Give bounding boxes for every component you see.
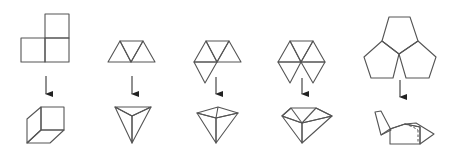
pyr4-inner-edge [216, 107, 218, 118]
net-four-triangles [194, 41, 241, 83]
diagram-canvas [0, 0, 452, 155]
net-three-squares [21, 14, 69, 62]
net-five-triangles [278, 41, 325, 83]
square-left [21, 38, 45, 62]
pyr4-face-right [216, 113, 238, 143]
pentagon-right [399, 41, 436, 78]
pyr5-face-back [282, 108, 332, 123]
square-top [45, 14, 69, 38]
hinge-edge [381, 129, 390, 135]
solid-square-pyramid-vertex [197, 107, 238, 143]
triangle-right [217, 41, 241, 62]
tri-face-right [132, 107, 151, 143]
pentagon-top [382, 17, 418, 54]
pyr5-face-left [282, 116, 302, 143]
triangle-upper-right [301, 41, 325, 62]
pyr4-face-left [197, 113, 216, 143]
triangle-lower-right [301, 62, 325, 83]
pentagon-left [364, 41, 399, 78]
solid-cube-corner [27, 107, 64, 143]
net-three-pentagons [364, 17, 436, 78]
triangle-middle [120, 41, 143, 62]
tri-face-back [115, 107, 151, 116]
triangle-upper-left [278, 41, 301, 62]
cube-face-left [27, 107, 41, 143]
cube-face-back [41, 107, 64, 130]
pentagon-flap-left [375, 111, 391, 135]
pyr5-rim-right [316, 108, 332, 116]
triangle-bottom [194, 62, 217, 83]
cube-face-bottom [27, 130, 64, 143]
triangle-right [131, 41, 155, 62]
pyr5-rim-left [282, 108, 291, 116]
solid-triangular-vertex [115, 107, 151, 143]
solid-dodecahedron-corner [375, 111, 434, 144]
pyr5-face-right [302, 116, 332, 143]
solid-pentagonal-pyramid-vertex [282, 108, 332, 143]
top-edge [390, 124, 405, 129]
triangle-top [206, 41, 229, 62]
polyhedra-vertex-diagram: Five polygon nets (top row) each with a … [0, 0, 452, 155]
triangle-top [290, 41, 313, 62]
triangle-left [194, 41, 217, 62]
net-three-triangles [108, 41, 155, 62]
square-right [45, 38, 69, 62]
triangle-lower-left [278, 62, 301, 83]
triangle-left [108, 41, 131, 62]
tri-face-left [115, 107, 132, 143]
